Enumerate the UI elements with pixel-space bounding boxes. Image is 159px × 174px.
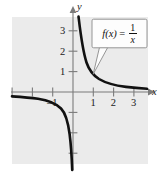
x-tick-label-2: 2 (111, 98, 116, 109)
equation-inline: f(x) = 1 x (102, 23, 137, 45)
equation-lhs: f(x) (102, 28, 117, 39)
y-axis-label: y (77, 2, 82, 13)
equation-equals-sign: = (118, 28, 126, 39)
fraction-numerator: 1 (130, 23, 135, 34)
curve-branch-negative (12, 96, 72, 170)
callout-equation: f(x) = 1 x (93, 20, 146, 47)
callout-pointer-tail (93, 47, 108, 74)
x-tick-label-3: 3 (131, 98, 136, 109)
x-tick-label-1: 1 (91, 98, 96, 109)
figure-graph-of-one-over-x: f(x) = 1 x y x –1 1 2 3 1 2 3 (0, 0, 159, 174)
fraction-one-over-x: 1 x (129, 23, 137, 45)
x-tick-label--1: –1 (47, 98, 58, 109)
y-axis-arrowhead (70, 6, 77, 13)
y-tick-label-2: 2 (60, 47, 65, 58)
y-tick-label-1: 1 (60, 67, 65, 78)
y-tick-label-3: 3 (60, 26, 65, 37)
fraction-denominator: x (131, 34, 135, 45)
x-axis-label: x (152, 87, 157, 98)
